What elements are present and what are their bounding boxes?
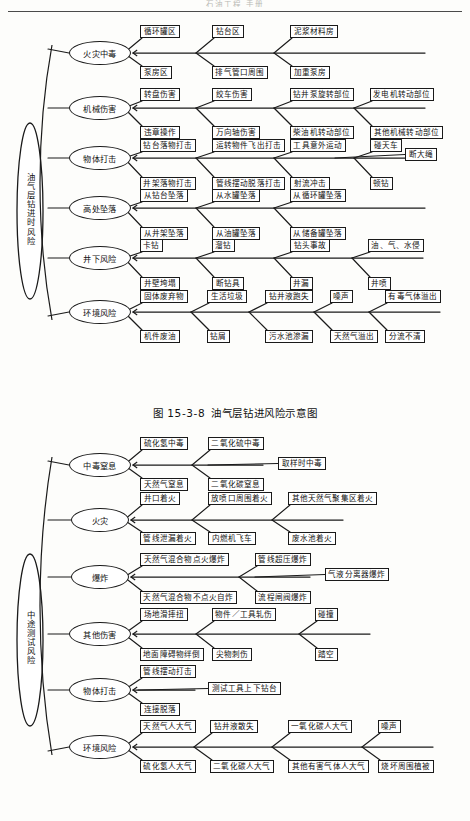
leaf-dst-risk-2-bot-0[interactable]: 天然气混合物不点火自炸 <box>140 591 237 604</box>
leaf-drilling-risk-0-bot-2[interactable]: 加重泵房 <box>290 66 330 79</box>
leaf-dst-risk-4-inline-0[interactable]: 测试工具上下钻台 <box>208 682 281 695</box>
leaf-dst-risk-1-top-1[interactable]: 放喷口周围着火 <box>208 492 272 505</box>
leaf-drilling-risk-0-bot-1[interactable]: 排气管口周围 <box>212 66 268 79</box>
leaf-dst-risk-5-top-0[interactable]: 天然气人大气 <box>140 720 196 733</box>
leaf-dst-risk-3-top-1[interactable]: 物件／工具轧伤 <box>212 608 276 621</box>
figure-number: 图 15-3-8 <box>153 407 205 419</box>
leaf-dst-risk-2-top-1[interactable]: 管线超压爆炸 <box>255 553 311 566</box>
leaf-drilling-risk-1-bot-1[interactable]: 万向轴伤害 <box>212 126 260 139</box>
leaf-dst-risk-0-bot-0[interactable]: 天然气窒息 <box>140 478 188 491</box>
trunk-label-drilling-risk: 油气层钻进时风险 <box>25 173 34 246</box>
leaf-drilling-risk-2-top-1[interactable]: 运转物件飞出打击 <box>212 139 285 152</box>
leaf-drilling-risk-2-top-3[interactable]: 碰天车 <box>370 139 402 152</box>
leaf-drilling-risk-4-top-2[interactable]: 钻头事故 <box>290 239 330 252</box>
leaf-drilling-risk-0-top-1[interactable]: 钻台区 <box>212 25 244 38</box>
leaf-drilling-risk-4-top-1[interactable]: 溜钻 <box>212 239 235 252</box>
leaf-dst-risk-0-bot-1[interactable]: 二氧化碳窒息 <box>208 478 264 491</box>
leaf-dst-risk-3-bot-1[interactable]: 尖物刺伤 <box>212 648 252 661</box>
leaf-dst-risk-3-bot-2[interactable]: 踏空 <box>315 648 338 661</box>
leaf-dst-risk-1-top-2[interactable]: 其他天然气聚集区着火 <box>288 492 377 505</box>
leaf-dst-risk-5-top-2[interactable]: 一氧化碳人大气 <box>288 720 352 733</box>
leaf-drilling-risk-1-top-1[interactable]: 绞车伤害 <box>212 88 252 101</box>
leaf-drilling-risk-2-bot-3[interactable]: 顿钻 <box>370 177 393 190</box>
figure-caption: 图 15-3-8油气层钻进风险示意图 <box>0 405 470 420</box>
leaf-dst-risk-0-inline-0[interactable]: 取样时中毒 <box>278 457 326 470</box>
leaf-dst-risk-3-top-0[interactable]: 场地滑摔扭 <box>140 608 188 621</box>
leaf-drilling-risk-1-bot-0[interactable]: 违章操作 <box>140 126 180 139</box>
category-drilling-risk-3[interactable]: 高处坠落 <box>69 196 131 220</box>
leaf-drilling-risk-5-top-3[interactable]: 噪声 <box>330 290 353 303</box>
leaf-dst-risk-2-bot-1[interactable]: 流程闸阀爆炸 <box>255 591 311 604</box>
leaf-drilling-risk-0-top-2[interactable]: 泥浆材料房 <box>290 25 338 38</box>
category-drilling-risk-4[interactable]: 井下风险 <box>69 246 131 270</box>
leaf-drilling-risk-5-bot-0[interactable]: 机件废油 <box>140 330 180 343</box>
leaf-drilling-risk-4-bot-3[interactable]: 井喷 <box>368 277 391 290</box>
leaf-drilling-risk-5-top-1[interactable]: 生活垃圾 <box>207 290 247 303</box>
leaf-dst-risk-5-bot-2[interactable]: 其他有害气体人大气 <box>288 760 369 773</box>
leaf-drilling-risk-5-bot-4[interactable]: 分流不清 <box>385 330 425 343</box>
leaf-dst-risk-5-bot-1[interactable]: 二氧化碳人大气 <box>210 760 274 773</box>
leaf-drilling-risk-2-inline-0[interactable]: 断大绳 <box>405 148 437 161</box>
category-drilling-risk-2[interactable]: 物体打击 <box>69 146 131 170</box>
leaf-drilling-risk-4-top-0[interactable]: 卡钻 <box>140 239 163 252</box>
category-dst-risk-0[interactable]: 中毒窒息 <box>69 453 131 477</box>
page-header-faint: 石油工程 手册 <box>0 0 470 7</box>
leaf-drilling-risk-5-bot-3[interactable]: 天然气溢出 <box>330 330 378 343</box>
leaf-drilling-risk-1-bot-3[interactable]: 其他机械转动部位 <box>370 126 443 139</box>
trunk-label-dst-risk: 中途测试风险 <box>25 611 34 666</box>
leaf-drilling-risk-3-top-0[interactable]: 从钻台坠落 <box>140 189 188 202</box>
leaf-drilling-risk-5-bot-2[interactable]: 污水池渗漏 <box>265 330 313 343</box>
leaf-drilling-risk-5-top-4[interactable]: 有毒气体溢出 <box>385 290 441 303</box>
leaf-drilling-risk-1-top-3[interactable]: 发电机转动部位 <box>370 88 434 101</box>
leaf-dst-risk-1-bot-2[interactable]: 废水池着火 <box>288 532 336 545</box>
leaf-drilling-risk-0-bot-0[interactable]: 泵房区 <box>140 66 172 79</box>
leaf-dst-risk-1-bot-0[interactable]: 管线泄漏着火 <box>140 532 196 545</box>
leaf-drilling-risk-5-top-0[interactable]: 固体废弃物 <box>140 290 188 303</box>
leaf-drilling-risk-3-top-2[interactable]: 从循环罐坠落 <box>290 189 346 202</box>
leaf-dst-risk-1-top-0[interactable]: 井口着火 <box>140 492 180 505</box>
figure-title: 油气层钻进风险示意图 <box>211 407 317 419</box>
leaf-drilling-risk-2-top-0[interactable]: 钻台落物打击 <box>140 139 196 152</box>
category-dst-risk-1[interactable]: 火灾 <box>71 508 129 532</box>
leaf-drilling-risk-2-top-2[interactable]: 工具意外运动 <box>290 139 346 152</box>
leaf-drilling-risk-3-top-1[interactable]: 从水罐坠落 <box>212 189 260 202</box>
leaf-dst-risk-0-top-0[interactable]: 硫化氢中毒 <box>140 437 188 450</box>
leaf-drilling-risk-1-top-2[interactable]: 钻井泵旋转部位 <box>290 88 354 101</box>
leaf-dst-risk-5-bot-0[interactable]: 硫化氢人大气 <box>140 760 196 773</box>
header-rule <box>8 11 462 12</box>
leaf-dst-risk-5-top-3[interactable]: 噪声 <box>378 720 401 733</box>
category-drilling-risk-5[interactable]: 环境风险 <box>69 300 131 324</box>
leaf-drilling-risk-4-bot-1[interactable]: 断钻具 <box>212 277 244 290</box>
leaf-dst-risk-4-bot-0[interactable]: 连接脱落 <box>140 703 180 716</box>
category-dst-risk-5[interactable]: 环境风险 <box>69 735 131 759</box>
leaf-drilling-risk-5-bot-1[interactable]: 钻屑 <box>207 330 230 343</box>
leaf-drilling-risk-5-top-2[interactable]: 钻井液跑失 <box>265 290 313 303</box>
leaf-dst-risk-2-inline-0[interactable]: 气液分离器爆炸 <box>325 568 389 581</box>
leaf-drilling-risk-0-top-0[interactable]: 循环罐区 <box>140 25 180 38</box>
category-dst-risk-2[interactable]: 爆炸 <box>71 565 129 589</box>
page-canvas: 石油工程 手册 油气层钻进时风险火灾中毒循环罐区钻台区泥浆材料房泵房区排气管口周… <box>0 0 470 821</box>
leaf-dst-risk-5-top-1[interactable]: 钻井液散失 <box>210 720 258 733</box>
leaf-drilling-risk-4-bot-2[interactable]: 井漏 <box>290 277 313 290</box>
leaf-dst-risk-3-top-2[interactable]: 碰撞 <box>315 608 338 621</box>
leaf-drilling-risk-1-bot-2[interactable]: 柴油机转动部位 <box>290 126 354 139</box>
category-dst-risk-3[interactable]: 其他伤害 <box>69 622 131 646</box>
leaf-drilling-risk-4-top-3[interactable]: 油、气、水侵 <box>368 239 424 252</box>
leaf-dst-risk-1-bot-1[interactable]: 内燃机飞车 <box>208 532 256 545</box>
leaf-dst-risk-5-bot-3[interactable]: 烧坏周围植被 <box>378 760 434 773</box>
leaf-dst-risk-3-bot-0[interactable]: 地面障碍物绊倒 <box>140 648 204 661</box>
category-dst-risk-4[interactable]: 物体打击 <box>69 678 131 702</box>
leaf-dst-risk-2-top-0[interactable]: 天然气混合物点火爆炸 <box>140 553 229 566</box>
leaf-dst-risk-0-top-1[interactable]: 二氧化硫中毒 <box>208 437 264 450</box>
category-drilling-risk-0[interactable]: 火灾中毒 <box>69 41 131 65</box>
leaf-dst-risk-4-top-0[interactable]: 管线摆动打击 <box>140 665 196 678</box>
category-drilling-risk-1[interactable]: 机械伤害 <box>69 96 131 120</box>
leaf-drilling-risk-4-bot-0[interactable]: 井壁垮塌 <box>140 277 180 290</box>
leaf-drilling-risk-1-top-0[interactable]: 转盘伤害 <box>140 88 180 101</box>
